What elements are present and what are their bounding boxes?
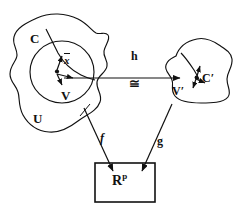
label-congruence-symbol: ≅ [129, 77, 140, 90]
base-point-x-bar [55, 69, 59, 73]
label-neighborhood-V-prime: V′ [172, 85, 184, 97]
curve-C [46, 29, 95, 80]
base-point-x-prime [195, 76, 199, 80]
label-region-U: U [33, 112, 42, 125]
label-map-h: h [131, 50, 138, 62]
label-euclidean-base: R [112, 173, 122, 188]
label-point-x-letter: x [64, 55, 70, 66]
label-neighborhood-V: V [61, 89, 70, 102]
tangent-prime-vector-up [197, 66, 200, 76]
label-point-x-bar: x [64, 53, 70, 66]
arrow-f [84, 108, 113, 171]
label-map-g: g [157, 135, 163, 147]
label-euclidean-exponent: p [122, 171, 127, 181]
label-curve-C-prime: C′ [202, 72, 214, 84]
label-euclidean-space: Rp [112, 172, 127, 188]
diagram-canvas: C U V x h ≅ V′ C′ f g Rp [0, 0, 238, 211]
tangent-prime-vector-down [193, 79, 196, 88]
tangent-vector-up [57, 56, 62, 70]
label-curve-C: C [30, 32, 39, 45]
label-map-f: f [100, 132, 104, 144]
